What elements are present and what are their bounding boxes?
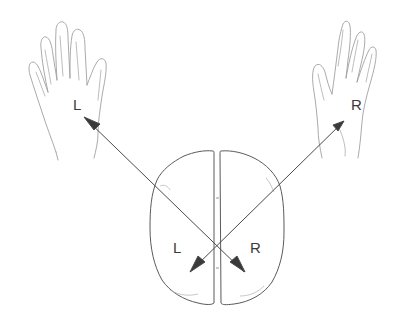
left-hand-label: L <box>73 97 81 112</box>
arrowhead-left-hand-icon <box>84 117 100 130</box>
brain-left-hemisphere <box>150 151 214 305</box>
connection-line-right-hand <box>190 121 344 272</box>
diagram-svg <box>0 0 410 317</box>
arrowhead-brain-left-icon <box>190 256 205 272</box>
contralateral-diagram: L R L R <box>0 0 410 317</box>
brain-right-hemisphere <box>220 151 284 305</box>
brain-right-hemisphere-label: R <box>250 240 261 255</box>
left-hand-icon <box>29 22 106 160</box>
right-hand-label: R <box>351 97 362 112</box>
right-hand-icon <box>313 21 377 158</box>
brain-left-hemisphere-label: L <box>173 240 181 255</box>
brain-icon <box>150 151 284 305</box>
arrowhead-brain-right-icon <box>230 256 245 272</box>
